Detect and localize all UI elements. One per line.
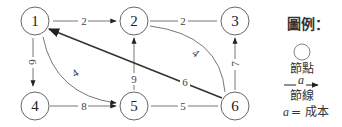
edge-5-6: 5 bbox=[151, 100, 218, 112]
edge-6-3: 7 bbox=[229, 38, 241, 90]
edge-1-4: 6 bbox=[27, 38, 39, 86]
svg-text:4: 4 bbox=[31, 98, 39, 114]
node-1: 1 bbox=[21, 7, 49, 35]
edge-1-5-cost: 4 bbox=[69, 66, 81, 79]
legend: 圖例： 節點 a 節線 a= 成本 bbox=[283, 16, 329, 119]
svg-text:1: 1 bbox=[31, 13, 39, 29]
edge-2-3-cost: 2 bbox=[180, 15, 186, 27]
svg-text:5: 5 bbox=[130, 98, 138, 114]
legend-cost-var: a bbox=[283, 105, 289, 119]
legend-cost-eq: = 成本 bbox=[291, 105, 329, 119]
node-2: 2 bbox=[120, 7, 148, 35]
legend-edge-symbol: a bbox=[298, 73, 304, 87]
edge-4-5: 8 bbox=[50, 100, 116, 112]
edge-4-5-cost: 8 bbox=[81, 100, 87, 112]
edge-1-5: 4 bbox=[43, 37, 116, 103]
network-diagram: 2 2 6 4 8 9 6 4 7 5 bbox=[0, 0, 342, 127]
node-4: 4 bbox=[21, 92, 49, 120]
edge-5-6-cost: 5 bbox=[180, 100, 186, 112]
edge-6-3-cost: 7 bbox=[229, 61, 241, 67]
legend-node-icon bbox=[294, 44, 310, 60]
edge-6-1-cost: 6 bbox=[182, 76, 188, 88]
legend-title: 圖例： bbox=[287, 16, 329, 32]
edge-2-6-cost: 4 bbox=[190, 47, 202, 60]
edge-1-4-cost: 6 bbox=[27, 59, 39, 65]
legend-edge-label: 節線 bbox=[290, 88, 314, 103]
node-3: 3 bbox=[221, 7, 249, 35]
edge-6-1: 6 bbox=[49, 29, 222, 98]
node-5: 5 bbox=[120, 92, 148, 120]
svg-text:6: 6 bbox=[231, 98, 239, 114]
edge-1-2-cost: 2 bbox=[81, 15, 87, 27]
svg-text:3: 3 bbox=[231, 13, 239, 29]
edge-2-3: 2 bbox=[150, 15, 217, 27]
svg-text:2: 2 bbox=[130, 13, 138, 29]
node-6: 6 bbox=[221, 92, 249, 120]
legend-cost-def: a= 成本 bbox=[283, 105, 329, 119]
edge-1-2: 2 bbox=[53, 15, 116, 27]
edge-5-2-cost: 9 bbox=[131, 73, 137, 85]
